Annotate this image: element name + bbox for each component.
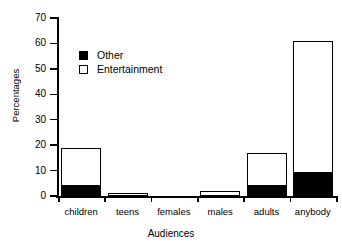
y-axis-tick — [50, 119, 57, 121]
legend-label-other: Other — [97, 50, 123, 61]
x-axis-tick — [58, 197, 60, 202]
y-axis-tick — [50, 17, 57, 19]
y-axis-tick-label: 20 — [20, 140, 46, 150]
y-axis-tick — [50, 43, 57, 45]
y-axis-tick-label: 50 — [20, 64, 46, 74]
bar-segment-entertainment-males — [200, 191, 240, 196]
y-axis-tick — [50, 94, 57, 96]
y-axis-tick-label: 30 — [20, 115, 46, 125]
legend-swatch-entertainment — [79, 65, 88, 74]
x-axis-label-adults: adults — [254, 206, 279, 217]
bar-adults — [247, 153, 287, 196]
x-axis-label-males: males — [207, 206, 232, 217]
y-axis-tick — [50, 144, 57, 146]
bar-children — [61, 148, 101, 196]
x-axis-tick — [151, 197, 153, 202]
y-axis-tick-label: 40 — [20, 89, 46, 99]
bar-segment-entertainment-children — [61, 148, 101, 186]
legend-label-entertainment: Entertainment — [97, 64, 162, 75]
bar-males — [200, 191, 240, 196]
bar-segment-entertainment-anybody — [293, 41, 333, 173]
bar-segment-other-adults — [247, 186, 287, 196]
bar-teens — [108, 193, 148, 196]
x-axis-label-children: children — [65, 206, 98, 217]
bar-segment-other-anybody — [293, 173, 333, 196]
bar-segment-entertainment-adults — [247, 153, 287, 186]
y-axis-tick — [50, 195, 57, 197]
y-axis-tick-label: 60 — [20, 38, 46, 48]
stacked-bar-chart: Percentages 010203040506070 Other Entert… — [0, 0, 342, 250]
x-axis-tick — [197, 197, 199, 202]
x-axis-title: Audiences — [0, 228, 342, 239]
legend-item-other: Other — [79, 49, 162, 61]
chart-legend: Other Entertainment — [79, 49, 162, 77]
x-axis-label-anybody: anybody — [295, 206, 331, 217]
y-axis-tick-label: 70 — [20, 13, 46, 23]
x-axis-label-females: females — [157, 206, 190, 217]
y-axis-tick — [50, 68, 57, 70]
bar-segment-other-children — [61, 186, 101, 196]
x-axis-tick — [104, 197, 106, 202]
y-axis-tick-label: 10 — [20, 166, 46, 176]
bar-anybody — [293, 41, 333, 196]
x-axis-tick — [336, 197, 338, 202]
x-axis-tick — [243, 197, 245, 202]
x-axis-tick — [290, 197, 292, 202]
legend-swatch-other — [79, 51, 88, 60]
y-axis-tick — [50, 170, 57, 172]
y-axis-tick-labels: 010203040506070 — [18, 0, 46, 250]
legend-item-entertainment: Entertainment — [79, 63, 162, 75]
bar-segment-entertainment-teens — [108, 193, 148, 196]
x-axis-label-teens: teens — [116, 206, 139, 217]
y-axis-tick-label: 0 — [20, 191, 46, 201]
